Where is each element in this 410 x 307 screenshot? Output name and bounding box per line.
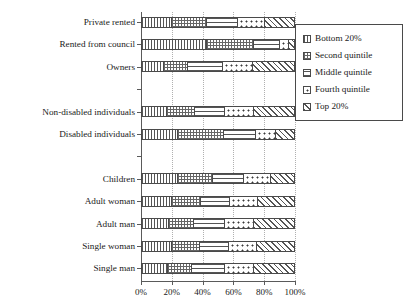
- x-axis-tick-label: 20%: [164, 287, 181, 297]
- bar-segment: [169, 219, 194, 228]
- bar-row: [141, 106, 295, 117]
- bar-segment: [172, 18, 207, 27]
- bar-segment: [229, 242, 257, 251]
- x-axis-tick: [141, 281, 142, 285]
- legend-label: Top 20%: [315, 102, 348, 111]
- bar-segment: [167, 107, 195, 116]
- bar-segment: [188, 62, 224, 71]
- bar-segment: [253, 62, 294, 71]
- stacked-bar-chart: 0%20%40%60%80%100% Private rentedRented …: [0, 0, 410, 307]
- bar-segment: [142, 242, 172, 251]
- bar-segment: [265, 18, 294, 27]
- category-label: Private rented: [0, 17, 135, 27]
- category-label: Disabled individuals: [0, 129, 135, 139]
- legend-swatch-icon: [303, 86, 311, 94]
- bar-segment: [258, 197, 294, 206]
- bar-row: [141, 61, 295, 72]
- category-label: Single woman: [0, 241, 135, 251]
- x-axis-tick: [203, 281, 204, 285]
- bar-segment: [244, 174, 271, 183]
- category-label: Adult man: [0, 219, 135, 229]
- bar-segment: [225, 107, 255, 116]
- category-label: Rented from council: [0, 39, 135, 49]
- x-axis-tick: [295, 281, 296, 285]
- bar-segment: [164, 62, 188, 71]
- category-label: Owners: [0, 62, 135, 72]
- x-axis-tick-label: 0%: [135, 287, 147, 297]
- x-axis-tick: [233, 281, 234, 285]
- bar-row: [141, 39, 295, 50]
- bar-row: [141, 173, 295, 184]
- bar-segment: [238, 18, 265, 27]
- bar-segment: [254, 219, 294, 228]
- category-label: Children: [0, 174, 135, 184]
- bar-segment: [142, 107, 167, 116]
- bar-segment: [289, 40, 294, 49]
- bar-segment: [142, 62, 164, 71]
- bar-segment: [224, 130, 256, 139]
- bar-segment: [230, 197, 258, 206]
- legend-label: Fourth quintile: [315, 85, 370, 94]
- bar-segment: [195, 107, 225, 116]
- bar-segment: [213, 174, 244, 183]
- bar-row: [141, 129, 295, 140]
- legend-swatch-icon: [303, 103, 311, 111]
- x-axis-tick-label: 40%: [194, 287, 211, 297]
- category-label: Single man: [0, 263, 135, 273]
- legend-swatch-icon: [303, 52, 311, 60]
- bar-row: [141, 263, 295, 274]
- legend-item: Bottom 20%: [303, 30, 398, 47]
- bar-segment: [225, 219, 255, 228]
- legend-swatch-icon: [303, 69, 311, 77]
- bar-segment: [142, 18, 172, 27]
- bar-segment: [142, 174, 178, 183]
- legend-label: Bottom 20%: [315, 34, 362, 43]
- bar-segment: [172, 197, 201, 206]
- x-axis-tick-label: 60%: [225, 287, 242, 297]
- bar-row: [141, 241, 295, 252]
- bar-segment: [178, 130, 224, 139]
- bar-segment: [142, 40, 207, 49]
- bar-segment: [200, 242, 230, 251]
- bar-segment: [207, 18, 237, 27]
- legend-item: Top 20%: [303, 98, 398, 115]
- bar-segment: [201, 197, 230, 206]
- y-axis-tick: [137, 89, 141, 90]
- bar-segment: [254, 107, 294, 116]
- bar-row: [141, 196, 295, 207]
- legend-item: Middle quintile: [303, 64, 398, 81]
- bar-segment: [223, 62, 253, 71]
- bar-segment: [194, 219, 225, 228]
- bar-segment: [256, 130, 276, 139]
- bar-segment: [280, 40, 289, 49]
- x-axis-tick: [172, 281, 173, 285]
- legend-item: Fourth quintile: [303, 81, 398, 98]
- x-axis-tick-label: 100%: [285, 287, 306, 297]
- bar-segment: [192, 264, 225, 273]
- bar-segment: [178, 174, 213, 183]
- bar-segment: [142, 264, 168, 273]
- bar-segment: [172, 242, 199, 251]
- legend-swatch-icon: [303, 35, 311, 43]
- bar-segment: [142, 197, 172, 206]
- bar-segment: [254, 264, 294, 273]
- legend-item: Second quintile: [303, 47, 398, 64]
- bar-row: [141, 218, 295, 229]
- x-axis-tick-label: 80%: [256, 287, 273, 297]
- bar-segment: [142, 219, 169, 228]
- bar-segment: [276, 130, 294, 139]
- x-axis-line: [141, 281, 296, 282]
- x-axis-tick: [264, 281, 265, 285]
- bar-segment: [168, 264, 192, 273]
- bar-row: [141, 17, 295, 28]
- y-axis-tick: [137, 156, 141, 157]
- bar-segment: [207, 40, 254, 49]
- legend-label: Middle quintile: [315, 68, 372, 77]
- bar-segment: [257, 242, 293, 251]
- legend-label: Second quintile: [315, 51, 372, 60]
- category-label: Non-disabled individuals: [0, 107, 135, 117]
- category-label: Adult woman: [0, 196, 135, 206]
- chart-legend: Bottom 20%Second quintileMiddle quintile…: [295, 24, 403, 121]
- bar-segment: [225, 264, 255, 273]
- bar-segment: [142, 130, 178, 139]
